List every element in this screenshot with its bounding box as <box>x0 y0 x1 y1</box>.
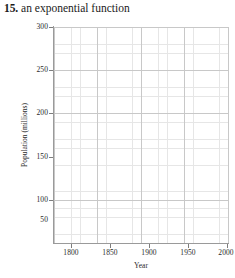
y-tick-label-100: 100 <box>36 196 48 204</box>
y-axis-line <box>53 26 54 244</box>
x-axis-title: Year <box>54 261 228 270</box>
y-axis-title: Population (millions) <box>19 27 31 243</box>
plot-grid <box>54 27 228 243</box>
y-tick-label-200: 200 <box>36 109 48 117</box>
y-tick-label-150: 150 <box>36 153 48 161</box>
x-tick-label-1800: 1800 <box>63 249 78 257</box>
y-tick-mark <box>49 27 53 28</box>
grid-top-edge <box>54 27 228 28</box>
x-tick-label-1900: 1900 <box>141 249 156 257</box>
y-tick-label-300: 300 <box>36 23 48 31</box>
population-graph-figure: 300 250 200 150 100 50 1800 1850 1900 19… <box>0 0 235 278</box>
x-axis-line <box>53 243 229 244</box>
x-tick-label-1850: 1850 <box>102 249 117 257</box>
y-tick-mark <box>49 70 53 71</box>
x-tick-label-1950: 1950 <box>180 249 195 257</box>
y-tick-mark <box>49 200 53 201</box>
y-tick-label-50: 50 <box>40 216 48 224</box>
y-tick-mark <box>49 157 53 158</box>
x-tick-label-2000: 2000 <box>218 249 233 257</box>
y-tick-mark <box>49 113 53 114</box>
grid-right-edge <box>228 27 229 243</box>
y-tick-label-250: 250 <box>36 66 48 74</box>
